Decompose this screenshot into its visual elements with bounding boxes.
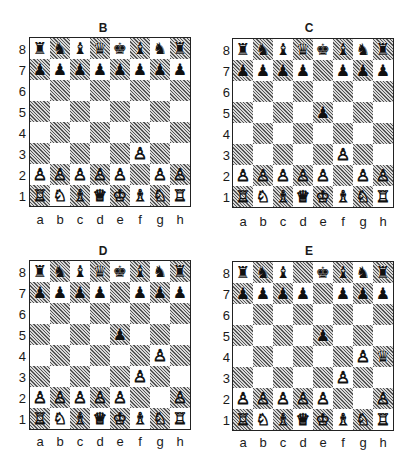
square-b8: ♞ — [253, 262, 273, 283]
black-knight-icon: ♞ — [256, 42, 270, 58]
square-b1: ♘ — [253, 186, 273, 207]
square-d6 — [90, 303, 110, 324]
black-knight-icon: ♞ — [153, 264, 167, 280]
square-c4 — [273, 123, 293, 144]
square-c2: ♙ — [70, 164, 90, 185]
square-h4 — [373, 123, 393, 144]
file-label: a — [233, 214, 253, 229]
square-e8: ♚ — [313, 262, 333, 283]
square-g4: ♙ — [353, 346, 373, 367]
square-c1: ♗ — [273, 409, 293, 430]
white-pawn-icon: ♙ — [113, 167, 127, 183]
file-label: g — [150, 434, 170, 449]
square-f5 — [130, 101, 150, 122]
square-f2 — [333, 388, 353, 409]
square-a8: ♜ — [30, 38, 50, 59]
square-c3 — [70, 143, 90, 164]
square-d7: ♟ — [293, 60, 313, 81]
square-g7: ♟ — [353, 60, 373, 81]
rank-label: 6 — [218, 82, 232, 103]
file-label: e — [313, 214, 333, 229]
rank-labels: 87654321 — [218, 263, 232, 431]
square-h3 — [170, 143, 190, 164]
square-f6 — [130, 80, 150, 101]
square-h2: ♙ — [373, 165, 393, 186]
square-a7: ♟ — [30, 59, 50, 80]
black-bishop-icon: ♝ — [73, 41, 87, 57]
square-g6 — [150, 303, 170, 324]
square-a6 — [233, 304, 253, 325]
square-e7 — [313, 60, 333, 81]
square-a6 — [233, 81, 253, 102]
file-label: f — [130, 434, 150, 449]
white-pawn-icon: ♙ — [376, 391, 390, 407]
square-d1: ♕ — [90, 185, 110, 206]
square-h4 — [170, 122, 190, 143]
square-d7: ♟ — [90, 59, 110, 80]
diagram-title: B — [0, 21, 206, 35]
black-knight-icon: ♞ — [53, 264, 67, 280]
black-queen-icon: ♛ — [376, 349, 390, 365]
black-rook-icon: ♜ — [236, 42, 250, 58]
white-king-icon: ♔ — [316, 412, 330, 428]
white-knight-icon: ♘ — [356, 189, 370, 205]
square-c8: ♝ — [273, 39, 293, 60]
square-b2: ♙ — [253, 165, 273, 186]
rank-label: 5 — [218, 326, 232, 347]
white-pawn-icon: ♙ — [73, 390, 87, 406]
square-c6 — [70, 80, 90, 101]
square-b8: ♞ — [50, 38, 70, 59]
square-g5 — [353, 325, 373, 346]
square-e1: ♔ — [110, 185, 130, 206]
square-f1: ♗ — [130, 408, 150, 429]
white-bishop-icon: ♗ — [73, 411, 87, 427]
white-rook-icon: ♖ — [236, 189, 250, 205]
rank-label: 3 — [14, 367, 28, 388]
square-h8: ♜ — [170, 38, 190, 59]
file-label: h — [373, 435, 393, 450]
square-g3 — [150, 143, 170, 164]
square-b3 — [253, 367, 273, 388]
black-knight-icon: ♞ — [356, 265, 370, 281]
square-e8: ♚ — [110, 38, 130, 59]
diagram-b: B 87654321 ♜♞♝♛♚♝♞♜♟♟♟♟♟♟♟♟♙♙♙♙♙♙♙♙♖♘♗♕♔… — [0, 0, 206, 235]
square-h1: ♖ — [170, 185, 190, 206]
square-a7: ♟ — [233, 283, 253, 304]
file-label: h — [170, 434, 190, 449]
file-label: c — [70, 212, 90, 227]
white-king-icon: ♔ — [113, 411, 127, 427]
diagram-c: C 87654321 ♜♞♝♛♚♝♞♜♟♟♟♟♟♟♟♟♙♙♙♙♙♙♙♙♖♘♗♕♔… — [206, 0, 412, 235]
square-g1: ♘ — [150, 408, 170, 429]
square-c7: ♟ — [70, 59, 90, 80]
white-queen-icon: ♕ — [93, 411, 107, 427]
file-labels: abcdefgh — [233, 214, 393, 228]
chess-board: ♜♞♝♛♚♝♞♜♟♟♟♟♟♟♟♟♙♙♙♙♙♙♙♙♖♘♗♕♔♗♘♖ — [232, 38, 394, 208]
white-pawn-icon: ♙ — [153, 348, 167, 364]
square-c2: ♙ — [70, 387, 90, 408]
square-a6 — [30, 80, 50, 101]
square-f4 — [130, 122, 150, 143]
square-a3 — [30, 143, 50, 164]
rank-label: 2 — [218, 166, 232, 187]
file-label: b — [253, 214, 273, 229]
square-e7: ♟ — [110, 59, 130, 80]
square-f1: ♗ — [130, 185, 150, 206]
square-a2: ♙ — [30, 387, 50, 408]
square-c4 — [273, 346, 293, 367]
square-c1: ♗ — [70, 408, 90, 429]
square-a5 — [233, 102, 253, 123]
square-b6 — [253, 81, 273, 102]
square-b8: ♞ — [50, 261, 70, 282]
black-pawn-icon: ♟ — [73, 285, 87, 301]
square-a5 — [30, 324, 50, 345]
square-g3 — [353, 367, 373, 388]
square-d4 — [293, 346, 313, 367]
square-d3 — [90, 366, 110, 387]
file-label: c — [273, 214, 293, 229]
square-a7: ♟ — [30, 282, 50, 303]
square-e2: ♙ — [313, 388, 333, 409]
square-b5 — [253, 325, 273, 346]
square-a1: ♖ — [30, 185, 50, 206]
diagram-d: D 87654321 ♜♞♝♛♚♝♞♜♟♟♟♟♟♟♟♟♙♙♙♙♙♙♙♙♖♘♗♕♔… — [0, 235, 206, 470]
square-f8: ♝ — [130, 261, 150, 282]
